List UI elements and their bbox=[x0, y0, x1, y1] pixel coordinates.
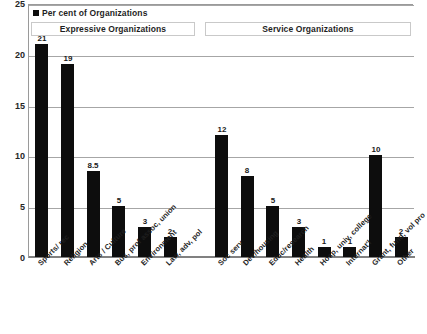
group-header-service: Service Organizations bbox=[205, 22, 411, 36]
bar-value-label: 8.5 bbox=[79, 162, 107, 170]
y-tick-label: 20 bbox=[3, 51, 25, 60]
group-header-service-label: Service Organizations bbox=[262, 24, 353, 34]
x-axis-labels: Sports/ recReligionArts / CultureBus, pr… bbox=[28, 259, 413, 334]
bar-value-label: 21 bbox=[28, 35, 56, 43]
legend-swatch-icon bbox=[33, 10, 39, 16]
bar-value-label: 5 bbox=[105, 197, 133, 205]
bar-value-label: 10 bbox=[362, 146, 390, 154]
y-tick-label: 15 bbox=[3, 102, 25, 111]
gridline bbox=[29, 56, 414, 57]
y-axis: 0510152025 bbox=[0, 0, 25, 264]
bar-value-label: 8 bbox=[233, 167, 261, 175]
group-header-expressive-label: Expressive Organizations bbox=[60, 24, 166, 34]
y-tick-label: 10 bbox=[3, 152, 25, 161]
bar bbox=[215, 135, 228, 257]
y-tick-label: 0 bbox=[3, 254, 25, 263]
bar-value-label: 3 bbox=[285, 218, 313, 226]
gridline bbox=[29, 107, 414, 108]
bar bbox=[35, 44, 48, 257]
bar-value-label: 5 bbox=[259, 197, 287, 205]
group-header-expressive: Expressive Organizations bbox=[31, 22, 195, 36]
chart-legend: Per cent of Organizations bbox=[33, 8, 147, 18]
bar bbox=[61, 64, 74, 257]
legend-label: Per cent of Organizations bbox=[42, 8, 147, 18]
bar-value-label: 12 bbox=[208, 126, 236, 134]
gridline bbox=[29, 5, 414, 6]
y-tick-label: 5 bbox=[3, 203, 25, 212]
bar-value-label: 19 bbox=[54, 55, 82, 63]
y-tick-label: 25 bbox=[3, 0, 25, 9]
plot-area: 21198.55321285311102 bbox=[28, 4, 413, 258]
